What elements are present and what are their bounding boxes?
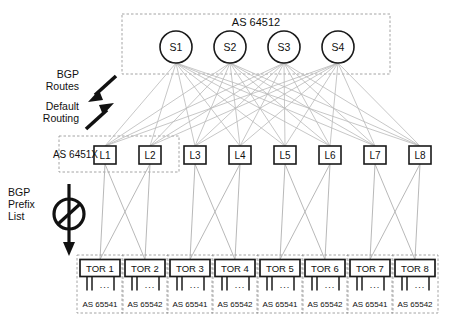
tor-as-label: AS 65542: [217, 300, 253, 309]
leaf-node-l5: L5: [274, 146, 296, 164]
tor-group-6: TOR 6...AS 65542: [302, 255, 348, 313]
server-ellipsis: ...: [415, 280, 426, 290]
tor-label: TOR 7: [356, 263, 384, 274]
bgp-routes-label-line1: BGP: [57, 68, 79, 80]
spine-nodes: S1S2S3S4: [160, 31, 354, 63]
tor-as-label: AS 65542: [307, 300, 343, 309]
leaf-tor-links: [100, 164, 420, 260]
leaf-node-label: L5: [279, 150, 291, 161]
network-topology-diagram: S1S2S3S4 L1L2L3L4L5L6L7L8 TOR 1...AS 655…: [0, 0, 454, 325]
spine-node-s3: S3: [268, 31, 300, 63]
leaf-nodes: L1L2L3L4L5L6L7L8: [94, 146, 431, 164]
leaf-node-label: L1: [99, 150, 111, 161]
spine-leaf-mesh-links: [105, 63, 420, 146]
leaf-node-l4: L4: [229, 146, 251, 164]
bgp-prefix-list-label-line2: Prefix: [8, 198, 36, 210]
leaf-node-label: L2: [144, 150, 156, 161]
default-routing-arrow-icon: [86, 103, 114, 129]
server-ellipsis: ...: [370, 280, 381, 290]
server-ellipsis: ...: [145, 280, 156, 290]
spine-node-label: S2: [224, 41, 237, 53]
tor-as-label: AS 65541: [352, 300, 388, 309]
server-ellipsis: ...: [280, 280, 291, 290]
leaf-node-l6: L6: [319, 146, 341, 164]
tor-label: TOR 8: [401, 263, 429, 274]
tor-as-label: AS 65541: [172, 300, 208, 309]
leaf-node-label: L4: [234, 150, 246, 161]
default-routing-label-line1: Default: [46, 100, 79, 112]
server-ellipsis: ...: [235, 280, 246, 290]
leaf-node-l7: L7: [364, 146, 386, 164]
tor-as-label: AS 65541: [262, 300, 298, 309]
tor-group-7: TOR 7...AS 65541: [347, 255, 393, 313]
tor-as-label: AS 65542: [397, 300, 433, 309]
tor-group-2: TOR 2...AS 65542: [122, 255, 168, 313]
diagram-canvas: S1S2S3S4 L1L2L3L4L5L6L7L8 TOR 1...AS 655…: [0, 0, 454, 325]
bgp-routes-label-line2: Routes: [46, 80, 79, 92]
leaf-node-label: L6: [324, 150, 336, 161]
spine-node-s4: S4: [322, 31, 354, 63]
server-ellipsis: ...: [325, 280, 336, 290]
tor-group-8: TOR 8...AS 65542: [392, 255, 438, 313]
tor-group-5: TOR 5...AS 65541: [257, 255, 303, 313]
default-routing-label-line2: Routing: [43, 112, 79, 124]
tor-label: TOR 3: [176, 263, 204, 274]
tor-label: TOR 6: [311, 263, 339, 274]
bgp-prefix-list-label-line3: List: [8, 210, 24, 222]
bgp-prefix-filter-icon: [54, 184, 84, 256]
spine-node-s1: S1: [160, 31, 192, 63]
leaf-node-l2: L2: [139, 146, 161, 164]
tor-as-label: AS 65541: [82, 300, 118, 309]
leaf-node-l8: L8: [409, 146, 431, 164]
tor-label: TOR 5: [266, 263, 294, 274]
spine-node-label: S4: [332, 41, 345, 53]
tor-group-1: TOR 1...AS 65541: [77, 255, 123, 313]
server-ellipsis: ...: [190, 280, 201, 290]
server-ellipsis: ...: [100, 280, 111, 290]
bgp-routes-arrow-icon: [88, 76, 116, 102]
spine-node-label: S1: [170, 41, 183, 53]
bgp-prefix-list-label-line1: BGP: [8, 186, 30, 198]
leaf-node-label: L3: [189, 150, 201, 161]
spine-as-label: AS 64512: [232, 16, 280, 28]
tor-label: TOR 4: [221, 263, 249, 274]
tor-as-label: AS 65542: [127, 300, 163, 309]
leaf-as-label: AS 6451X: [53, 149, 98, 160]
tor-group-3: TOR 3...AS 65541: [167, 255, 213, 313]
leaf-node-label: L8: [414, 150, 426, 161]
spine-node-label: S3: [278, 41, 291, 53]
spine-node-s2: S2: [214, 31, 246, 63]
tor-nodes: TOR 1...AS 65541TOR 2...AS 65542TOR 3...…: [77, 255, 438, 313]
leaf-node-l3: L3: [184, 146, 206, 164]
tor-label: TOR 1: [86, 263, 114, 274]
tor-label: TOR 2: [131, 263, 159, 274]
tor-group-4: TOR 4...AS 65542: [212, 255, 258, 313]
leaf-node-label: L7: [369, 150, 381, 161]
